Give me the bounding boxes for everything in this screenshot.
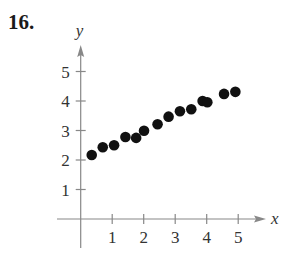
x-tick-label: 2	[139, 228, 148, 247]
data-point	[86, 150, 97, 161]
data-point	[139, 125, 150, 136]
data-point	[131, 133, 142, 144]
data-point	[109, 140, 120, 151]
data-point	[97, 142, 108, 153]
y-tick-label: 3	[61, 122, 70, 141]
y-tick-label: 4	[61, 92, 70, 111]
x-tick-label: 4	[202, 228, 211, 247]
y-tick-label: 1	[61, 181, 70, 200]
data-point	[219, 89, 230, 100]
x-axis-label: x	[270, 209, 279, 228]
axes: xy	[57, 21, 279, 248]
data-point	[175, 106, 186, 117]
data-point	[230, 87, 241, 98]
x-tick-label: 1	[108, 228, 117, 247]
data-point	[152, 119, 163, 130]
y-tick-label: 5	[61, 63, 70, 82]
data-points	[86, 87, 240, 161]
x-tick-label: 3	[171, 228, 180, 247]
y-axis-label: y	[74, 21, 84, 40]
data-point	[202, 97, 213, 108]
scatter-plot: xy 1234512345	[0, 0, 303, 270]
y-tick-label: 2	[61, 151, 70, 170]
x-tick-label: 5	[234, 228, 243, 247]
data-point	[163, 111, 174, 122]
data-point	[120, 132, 131, 143]
data-point	[186, 104, 197, 115]
